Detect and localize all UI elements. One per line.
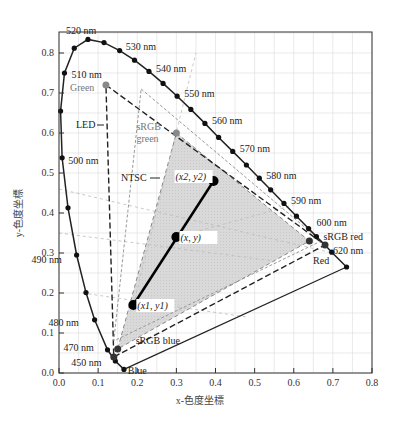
x-axis-title: x-色度坐標: [176, 394, 224, 406]
locus-point: [117, 48, 122, 53]
locus-point: [121, 367, 126, 372]
primary-label: Blue: [128, 365, 147, 376]
primary-point: [306, 238, 313, 245]
locus-point: [294, 214, 299, 219]
locus-point: [74, 252, 79, 257]
y-axis-title: y-色度坐標: [12, 189, 24, 237]
locus-point: [72, 46, 77, 51]
primary-label: sRGB blue: [136, 335, 181, 346]
wavelength-label: 570 nm: [240, 143, 271, 154]
locus-point: [230, 149, 235, 154]
x-tick-label: 0.5: [248, 377, 261, 388]
locus-point: [85, 37, 90, 42]
wavelength-label: 470 nm: [64, 342, 95, 353]
y-tick-label: 0.8: [42, 47, 55, 58]
wavelength-label: 510 nm: [71, 69, 102, 80]
y-tick-label: 0.7: [42, 87, 55, 98]
locus-point: [146, 69, 151, 74]
mix-label: (x2, y2): [176, 171, 207, 183]
locus-point: [268, 187, 273, 192]
locus-point: [92, 317, 97, 322]
x-tick-label: 0.1: [92, 377, 105, 388]
locus-point: [101, 40, 106, 45]
locus-point: [257, 176, 262, 181]
locus-point: [281, 201, 286, 206]
primary-label: sRGB: [136, 121, 161, 132]
primary-point: [322, 242, 329, 249]
wavelength-label: 450 nm: [71, 357, 102, 368]
wavelength-label: 620 nm: [333, 245, 364, 256]
wavelength-label: 500 nm: [68, 155, 99, 166]
x-tick-label: 0.3: [170, 377, 183, 388]
locus-point: [344, 264, 349, 269]
y-tick-label: 0.5: [42, 167, 55, 178]
locus-point: [314, 234, 319, 239]
wavelength-label: 600 nm: [317, 217, 348, 228]
locus-point: [306, 226, 311, 231]
primary-point: [114, 346, 121, 353]
locus-point: [105, 347, 110, 352]
x-tick-label: 0.0: [53, 377, 66, 388]
primary-label: green: [136, 133, 158, 144]
primary-label: Red: [313, 255, 329, 266]
locus-point: [132, 58, 137, 63]
locus-point: [188, 107, 193, 112]
wavelength-label: 530 nm: [126, 41, 157, 52]
wavelength-label: 560 nm: [212, 115, 243, 126]
x-tick-label: 0.7: [327, 377, 340, 388]
y-tick-label: 0.1: [42, 327, 55, 338]
x-tick-label: 0.2: [131, 377, 144, 388]
wavelength-label: 540 nm: [156, 63, 187, 74]
locus-point: [175, 94, 180, 99]
y-tick-label: 0.6: [42, 127, 55, 138]
primary-label: Green: [70, 82, 94, 93]
locus-point: [62, 70, 67, 75]
locus-point: [202, 121, 207, 126]
mix-label: (x1, y1): [137, 300, 168, 312]
x-tick-label: 0.6: [288, 377, 301, 388]
wavelength-label: 580 nm: [266, 170, 297, 181]
y-tick-label: 0.0: [42, 367, 55, 378]
wavelength-label: 590 nm: [291, 195, 322, 206]
wavelength-label: 480 nm: [49, 317, 79, 328]
y-tick-label: 0.4: [42, 207, 55, 218]
locus-point: [83, 290, 88, 295]
primary-point: [173, 130, 180, 137]
locus-point: [160, 81, 165, 86]
x-tick-label: 0.8: [366, 377, 379, 388]
wavelength-label: 550 nm: [184, 88, 215, 99]
primary-point: [110, 354, 117, 361]
led-label: LED: [76, 119, 95, 130]
cie-chromaticity-chart: 0.00.10.20.30.40.50.60.70.80.00.10.20.30…: [0, 0, 402, 428]
ntsc-label: NTSC: [121, 172, 147, 183]
locus-point: [60, 155, 65, 160]
x-tick-label: 0.4: [209, 377, 222, 388]
primary-point: [102, 82, 109, 89]
wavelength-label: 520 nm: [66, 25, 97, 36]
mix-label: (x, y): [180, 232, 201, 244]
locus-point: [244, 162, 249, 167]
locus-point: [216, 135, 221, 140]
y-tick-label: 0.2: [42, 287, 55, 298]
locus-point: [65, 205, 70, 210]
wavelength-label: 490 nm: [32, 254, 63, 265]
primary-label: sRGB red: [323, 231, 363, 242]
